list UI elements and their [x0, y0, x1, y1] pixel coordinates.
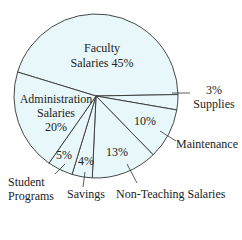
- admin-label-line1: Administration: [14, 92, 98, 106]
- savings-name: Savings: [67, 188, 105, 201]
- nonteaching-name: Non-Teaching Salaries: [116, 188, 225, 201]
- maintenance-pct: 10%: [134, 115, 156, 128]
- faculty-label: Faculty Salaries 45%: [62, 41, 142, 71]
- faculty-label-line1: Faculty: [62, 41, 142, 56]
- maintenance-name: Maintenance: [176, 138, 238, 151]
- student-name-line2: Programs: [8, 189, 54, 203]
- supplies-pct: 3%: [189, 83, 239, 97]
- student-name-line1: Student: [8, 175, 54, 189]
- faculty-label-line2: Salaries 45%: [62, 56, 142, 71]
- savings-pct: 4%: [78, 155, 94, 168]
- admin-label-line2: Salaries: [14, 106, 98, 120]
- student-pct: 5%: [56, 149, 72, 162]
- student-name: Student Programs: [8, 175, 54, 203]
- supplies-name: Supplies: [189, 97, 239, 111]
- nonteaching-pct: 13%: [106, 146, 128, 159]
- admin-label: Administration Salaries 20%: [14, 92, 98, 134]
- supplies-label: 3% Supplies: [189, 83, 239, 111]
- admin-label-pct: 20%: [14, 120, 98, 134]
